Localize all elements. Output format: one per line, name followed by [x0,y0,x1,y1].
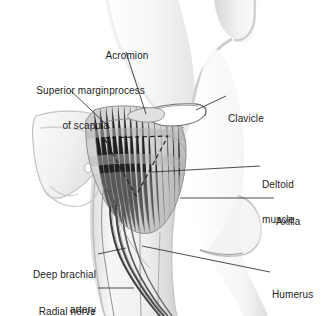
label-clavicle-line1: Clavicle [228,113,288,125]
label-deep-brachial-artery-line1: Deep brachial [12,269,96,281]
label-humerus-line1: Humerus [272,289,332,301]
label-superior-margin-of-scapula-line1: Superior margin [13,85,109,97]
torso-profile [189,46,268,316]
label-axilla-line1: Axilla [276,216,328,228]
anatomy-figure: Acromion process Superior margin of scap… [0,0,332,316]
label-superior-margin-of-scapula: Superior margin of scapula [13,62,109,154]
label-radial-nerve-line1: Radial nerve [14,306,96,316]
label-clavicle: Clavicle [228,90,288,148]
label-axilla: Axilla [276,193,328,251]
label-humerus: Humerus [272,266,332,316]
label-radial-nerve: Radial nerve [14,283,96,316]
label-superior-margin-of-scapula-line2: of scapula [13,120,109,132]
body-profile [189,0,268,316]
label-deltoid-muscle-line1: Deltoid [262,179,326,191]
label-acromion-process-line1: Acromion [88,50,166,62]
